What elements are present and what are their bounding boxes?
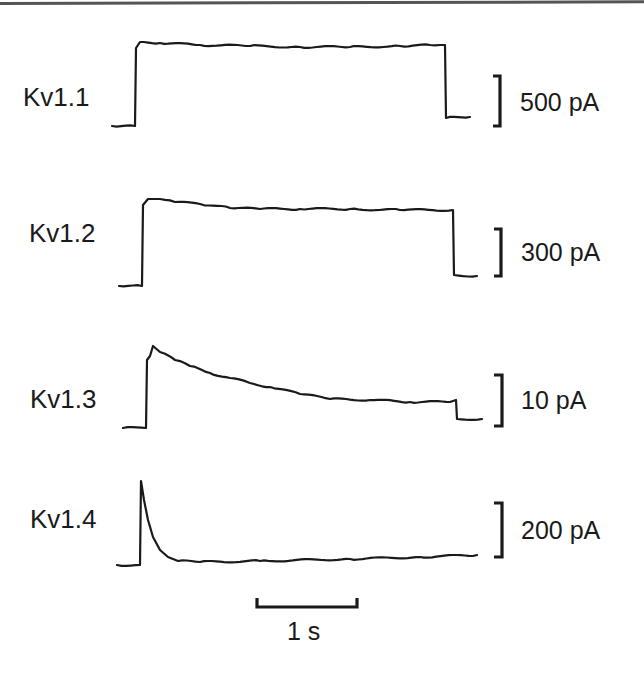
trace-kv1-1 [112, 42, 470, 127]
label-kv1-2: Kv1.2 [29, 220, 96, 246]
scale-label-kv1-2: 300 pA [521, 240, 600, 265]
trace-kv1-4 [117, 481, 477, 566]
label-kv1-1: Kv1.1 [23, 84, 90, 110]
label-kv1-4: Kv1.4 [30, 506, 97, 532]
current-scale-bar-kv1-4 [494, 503, 502, 557]
label-kv1-3: Kv1.3 [30, 386, 97, 412]
time-scale-bar [257, 598, 357, 607]
current-scale-bar-kv1-3 [494, 375, 502, 426]
trace-kv1-3 [123, 346, 482, 428]
scale-label-kv1-3: 10 pA [521, 388, 586, 413]
current-scale-bar-kv1-2 [494, 229, 501, 276]
time-scale-label: 1 s [287, 619, 320, 644]
scale-label-kv1-1: 500 pA [520, 90, 599, 115]
trace-kv1-2 [119, 199, 477, 286]
scale-label-kv1-4: 200 pA [521, 518, 600, 543]
current-scale-bar-kv1-1 [493, 76, 500, 126]
